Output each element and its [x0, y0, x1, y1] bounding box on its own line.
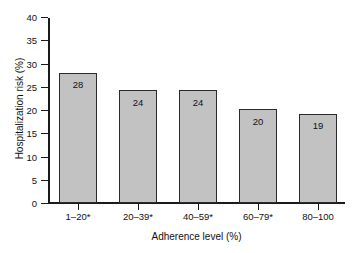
x-tick-2 [138, 204, 139, 210]
y-tick-20 [41, 110, 48, 111]
x-axis-title: Adherence level (%) [48, 231, 345, 242]
y-axis-line [48, 18, 50, 204]
x-tick-1 [78, 204, 79, 210]
bar-chart-figure: 0 5 10 15 20 25 30 35 40 28 24 24 20 19 … [0, 0, 355, 253]
x-tick-5 [318, 204, 319, 210]
y-tick-15 [41, 133, 48, 134]
bar-value-5: 19 [296, 121, 340, 131]
y-tick-25 [41, 87, 48, 88]
y-tick-0 [41, 203, 48, 204]
y-tick-5 [41, 180, 48, 181]
y-tick-30 [41, 64, 48, 65]
bar-1 [59, 73, 97, 203]
plot-area: 0 5 10 15 20 25 30 35 40 28 24 24 20 19 … [0, 0, 355, 253]
bar-value-3: 24 [176, 98, 220, 108]
x-tick-4 [258, 204, 259, 210]
y-tick-35 [41, 40, 48, 41]
bar-value-1: 28 [56, 80, 100, 90]
y-tick-10 [41, 157, 48, 158]
bar-value-4: 20 [236, 117, 280, 127]
x-tick-3 [198, 204, 199, 210]
x-tick-label-5: 80–100 [283, 212, 353, 222]
y-axis-title: Hospitalization risk (%) [14, 14, 25, 204]
y-tick-40 [41, 17, 48, 18]
bar-value-2: 24 [116, 98, 160, 108]
